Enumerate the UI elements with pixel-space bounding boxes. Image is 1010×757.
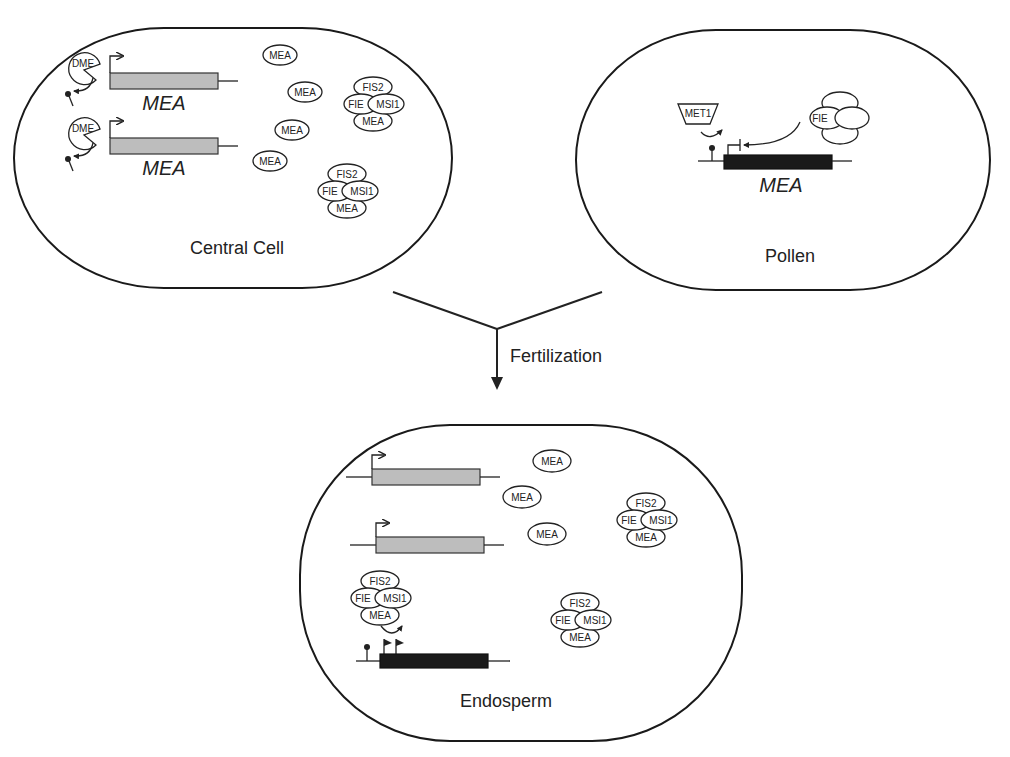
gene-label: MEA [142, 92, 185, 114]
cell-label: Endosperm [460, 691, 552, 711]
fertilization-label: Fertilization [510, 346, 602, 366]
gene-label: MEA [142, 157, 185, 179]
svg-text:MSI1: MSI1 [383, 593, 407, 604]
svg-text:FIS2: FIS2 [336, 169, 358, 180]
svg-text:FIS2: FIS2 [362, 82, 384, 93]
central-cell: DME MEA DME MEA [14, 28, 452, 288]
svg-text:FIE: FIE [322, 186, 338, 197]
svg-text:MEA: MEA [541, 456, 563, 467]
svg-text:MEA: MEA [294, 87, 316, 98]
free-mea-protein: MEA [503, 486, 541, 508]
svg-text:FIE: FIE [555, 615, 571, 626]
svg-text:MEA: MEA [336, 203, 358, 214]
svg-text:MEA: MEA [369, 610, 391, 621]
mea-gene-active [372, 469, 480, 485]
free-mea-protein: MEA [275, 120, 309, 140]
endosperm-cell: MEA MEA MEA FIS2 MEA FIE MSI1 FIS2 MEA [300, 425, 742, 741]
fertilization-connector: Fertilization [393, 292, 602, 390]
mea-imprinting-diagram: DME MEA DME MEA [0, 0, 1010, 757]
cell-label: Central Cell [190, 238, 284, 258]
svg-text:FIS2: FIS2 [635, 498, 657, 509]
mea-gene-active [110, 138, 218, 154]
svg-text:MEA: MEA [635, 532, 657, 543]
svg-text:MEA: MEA [259, 156, 281, 167]
svg-text:FIE: FIE [355, 593, 371, 604]
svg-text:FIS2: FIS2 [569, 598, 591, 609]
pollen-cell: MET1 MEA FIE Pollen [576, 30, 990, 290]
svg-text:FIE: FIE [348, 99, 364, 110]
svg-text:FIS2: FIS2 [369, 576, 391, 587]
svg-text:DME: DME [72, 123, 95, 134]
free-mea-protein: MEA [533, 450, 571, 472]
svg-text:MEA: MEA [569, 632, 591, 643]
gene-label: MEA [759, 174, 802, 196]
mea-gene-silenced [724, 155, 832, 169]
svg-text:MEA: MEA [281, 125, 303, 136]
mea-gene-silenced [380, 654, 488, 668]
free-mea-protein: MEA [288, 82, 322, 102]
svg-text:MET1: MET1 [685, 108, 712, 119]
svg-text:MEA: MEA [536, 529, 558, 540]
mea-gene-active [110, 73, 218, 89]
cell-label: Pollen [765, 246, 815, 266]
svg-text:MEA: MEA [362, 116, 384, 127]
svg-text:FIE: FIE [621, 515, 637, 526]
svg-text:MEA: MEA [511, 492, 533, 503]
svg-text:DME: DME [72, 58, 95, 69]
svg-text:MSI1: MSI1 [649, 515, 673, 526]
svg-text:MSI1: MSI1 [376, 99, 400, 110]
down-arrow-icon [491, 377, 503, 390]
svg-text:FIE: FIE [812, 113, 828, 124]
svg-text:MEA: MEA [269, 50, 291, 61]
mea-gene-active [376, 537, 484, 553]
free-mea-protein: MEA [263, 45, 297, 65]
svg-text:MSI1: MSI1 [583, 615, 607, 626]
free-mea-protein: MEA [253, 151, 287, 171]
free-mea-protein: MEA [528, 523, 566, 545]
svg-text:MSI1: MSI1 [350, 186, 374, 197]
